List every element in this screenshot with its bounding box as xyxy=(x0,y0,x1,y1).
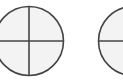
crosshair-circle-1 xyxy=(0,7,64,76)
crosshair-circle-2 xyxy=(98,7,123,76)
diagram-canvas xyxy=(0,0,123,82)
